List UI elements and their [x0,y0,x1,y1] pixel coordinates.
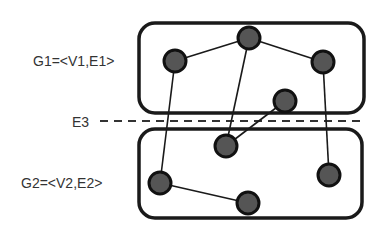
edge-v1c-v2d [323,62,329,175]
node-v1a [164,50,186,72]
node-v2c [237,192,259,214]
node-v2a [215,135,237,157]
node-v1b [238,27,260,49]
node-v2d [318,164,340,186]
g1-label: G1=<V1,E1> [33,53,114,69]
node-v2b [149,172,171,194]
graph-partition-diagram: G1=<V1,E1> E3 G2=<V2,E2> [0,0,385,233]
g2-label: G2=<V2,E2> [21,175,102,191]
edge-v2b-v2c [160,183,248,203]
e3-label: E3 [72,114,89,130]
node-v1d [274,90,296,112]
node-v1c [312,51,334,73]
